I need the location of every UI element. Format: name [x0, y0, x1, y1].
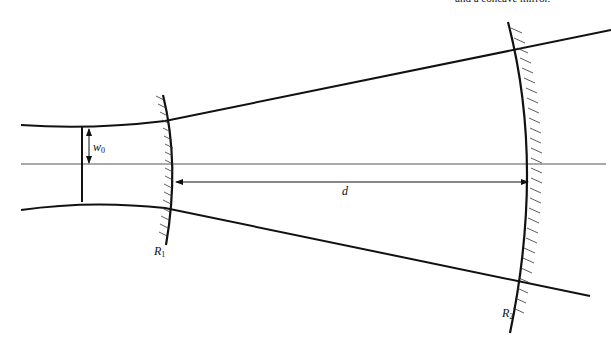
beam-lower-edge: [21, 204, 590, 296]
label-r2: R2: [502, 306, 513, 321]
beam-upper-edge: [21, 30, 611, 127]
label-d: d: [342, 184, 348, 199]
mirror-r1: [163, 95, 172, 245]
label-w0: w0: [93, 140, 105, 155]
gaussian-beam-diagram: [0, 0, 611, 338]
label-r1: R1: [154, 244, 165, 259]
